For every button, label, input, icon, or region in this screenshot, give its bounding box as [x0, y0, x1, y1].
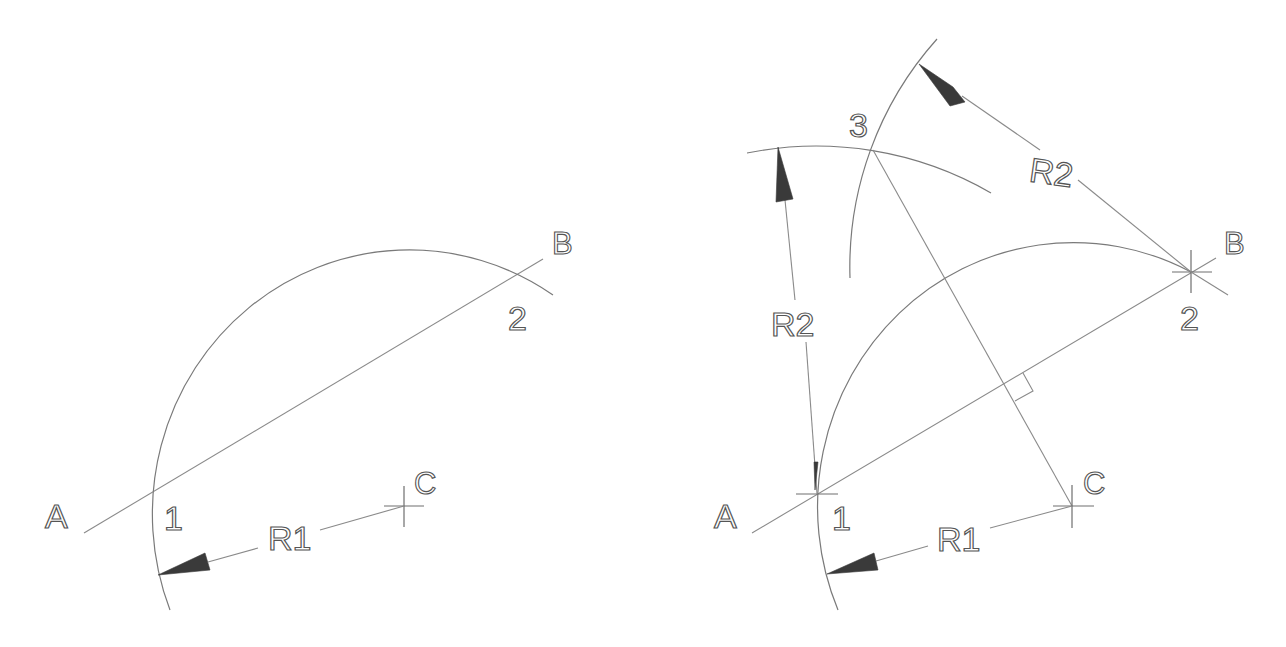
arc-r1-left: [152, 250, 553, 610]
label-c-right: C: [1083, 466, 1105, 501]
label-r2-left: R2: [771, 305, 814, 343]
construction-diagram: A B C 1 2 R1: [0, 0, 1286, 647]
arrowhead-r1-left-icon: [158, 553, 210, 575]
label-a-left: A: [45, 497, 68, 535]
point-mark-2-right-icon: [1172, 250, 1228, 295]
arrowhead-r1-right-icon: [827, 553, 878, 574]
dim-line-r1-left-a: [320, 506, 404, 530]
line-ab-right: [752, 258, 1216, 533]
dim-line-r2-left-b: [785, 200, 795, 300]
label-point-2-left: 2: [508, 299, 527, 337]
dim-line-r2-top-a: [1078, 180, 1191, 272]
dim-line-r1-right-a: [990, 506, 1072, 528]
arrowhead-r2-top-icon: [919, 64, 965, 106]
label-b-right: B: [1224, 226, 1245, 261]
left-panel: A B C 1 2 R1: [45, 226, 573, 610]
label-point-1-right: 1: [832, 499, 851, 537]
dim-line-r1-left-b: [208, 548, 258, 562]
label-point-3-right: 3: [849, 106, 868, 144]
arrowhead-r2-left-icon: [776, 147, 793, 202]
label-c-left: C: [414, 466, 436, 501]
dim-line-r2-top-b: [962, 96, 1040, 150]
label-r1-left: R1: [268, 519, 311, 557]
right-angle-marker-icon: [1015, 373, 1033, 401]
label-point-2-right: 2: [1180, 299, 1199, 337]
right-panel: A B C 1 2 3 R1 R2 R2: [714, 39, 1245, 610]
dim-line-r1-right-b: [876, 546, 928, 561]
label-r1-right: R1: [937, 520, 980, 558]
label-r2-top: R2: [1027, 151, 1075, 195]
label-b-left: B: [552, 226, 573, 261]
label-point-1-left: 1: [164, 499, 183, 537]
perpendicular-line-3-to-c: [873, 150, 1072, 506]
label-a-right: A: [714, 497, 737, 535]
